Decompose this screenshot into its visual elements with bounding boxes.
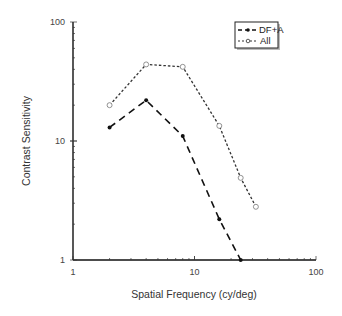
data-point — [180, 64, 185, 69]
data-point — [107, 103, 112, 108]
data-point — [108, 125, 112, 129]
legend: DF+A All — [235, 22, 284, 50]
y-axis-title: Contrast Sensitivity — [20, 95, 32, 186]
x-tick-label: 1 — [70, 267, 75, 277]
data-point — [253, 204, 258, 209]
data-point — [144, 98, 148, 102]
y-tick-label: 100 — [50, 17, 65, 27]
x-axis-title: Spatial Frequency (cy/deg) — [131, 288, 256, 300]
x-tick-label: 10 — [189, 267, 199, 277]
data-point — [217, 123, 222, 128]
axes — [73, 22, 316, 260]
data-point — [238, 175, 243, 180]
data-point — [239, 258, 243, 262]
y-tick-label: 10 — [55, 136, 65, 146]
x-tick-label: 100 — [308, 267, 323, 277]
y-tick-label: 1 — [60, 255, 65, 265]
legend-marker-all — [246, 39, 250, 43]
legend-label-all: All — [260, 35, 271, 46]
legend-label-dfa: DF+A — [259, 24, 284, 35]
data-point — [144, 62, 149, 67]
legend-marker-dfa — [246, 28, 250, 32]
contrast-sensitivity-chart: 110100110100 Spatial Frequency (cy/deg) … — [0, 0, 342, 316]
data-point — [217, 217, 221, 221]
data-series — [107, 62, 258, 262]
data-point — [181, 134, 185, 138]
